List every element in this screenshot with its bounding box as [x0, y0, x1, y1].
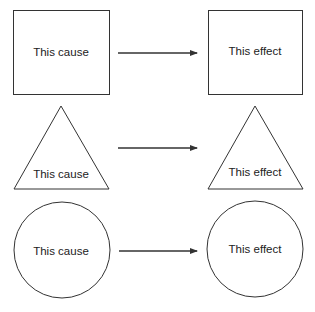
row-triangle: This cause This effect: [14, 106, 303, 189]
cause-effect-diagram: This cause This effect This cause This e…: [0, 0, 315, 312]
row-square: This cause This effect: [14, 11, 303, 95]
cause-label: This cause: [33, 168, 89, 180]
diagram-canvas: This cause This effect This cause This e…: [0, 0, 315, 312]
row-circle: This cause This effect: [14, 201, 303, 298]
cause-label: This cause: [33, 46, 89, 58]
effect-label: This effect: [229, 166, 283, 178]
effect-label: This effect: [229, 243, 283, 255]
effect-label: This effect: [229, 45, 283, 57]
cause-label: This cause: [33, 245, 89, 257]
